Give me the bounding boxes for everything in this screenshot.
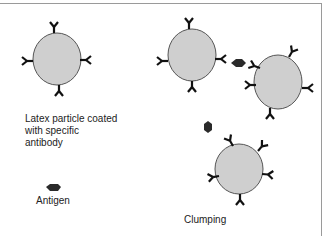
antibody-icon [22, 57, 33, 65]
legend-antigen-icon [46, 184, 61, 191]
latex-label-line-3: antibody [25, 137, 117, 149]
antibody-icon [80, 56, 91, 64]
antibody-icon [185, 18, 193, 29]
antigen-label: Antigen [36, 195, 70, 207]
antibody-icon [215, 55, 226, 63]
antibody-icon [236, 194, 244, 205]
antibody-icon [188, 81, 196, 92]
clumping-label: Clumping [184, 214, 226, 226]
latex-particle-clump-3 [207, 134, 273, 205]
latex-label-line-2: with specific [25, 125, 117, 137]
antibody-icon [157, 57, 168, 65]
antibody-icon [302, 84, 313, 92]
latex-label-line-1: Latex particle coated [25, 113, 117, 125]
antibody-icon [266, 108, 274, 119]
latex-particle-clump-1 [157, 18, 226, 92]
antigen-icon [231, 59, 246, 67]
antibody-icon [255, 140, 268, 154]
antigen-icon [204, 121, 212, 133]
latex-particle-label: Latex particle coated with specific anti… [25, 113, 117, 149]
antibody-icon [55, 85, 63, 96]
latex-particle-clump-2 [245, 45, 313, 119]
antibody-icon [50, 22, 58, 33]
latex-particle-single [22, 22, 91, 96]
